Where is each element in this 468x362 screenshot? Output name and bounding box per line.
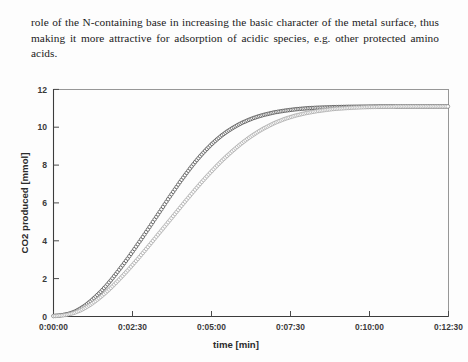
figure-container: 0 2 4 6 8 10 12 0:00:00 0:02:30 0:05:00 …	[0, 78, 468, 362]
body-paragraph: role of the N-containing base in increas…	[31, 15, 439, 62]
page-canvas: role of the N-containing base in increas…	[0, 0, 468, 362]
x-tick-label-4: 0:10:00	[355, 322, 384, 332]
y-axis-ticks	[54, 89, 60, 316]
data-series-layer	[52, 105, 450, 318]
x-tick-label-0: 0:00:00	[39, 322, 68, 332]
co2-production-chart: 0 2 4 6 8 10 12 0:00:00 0:02:30 0:05:00 …	[0, 78, 468, 362]
x-tick-label-1: 0:02:30	[118, 322, 147, 332]
y-tick-label-2: 2	[42, 274, 47, 284]
x-axis-title: time [min]	[213, 339, 259, 350]
y-tick-label-0: 0	[42, 312, 47, 322]
y-tick-label-8: 8	[42, 160, 47, 170]
series-slower-catalyst	[52, 105, 450, 318]
y-tick-label-12: 12	[37, 85, 47, 95]
plot-frame	[54, 90, 449, 317]
x-tick-label-5: 0:12:30	[434, 322, 463, 332]
x-axis-ticks	[54, 311, 449, 317]
x-tick-label-3: 0:07:30	[276, 322, 305, 332]
y-tick-label-6: 6	[42, 198, 47, 208]
x-tick-label-2: 0:05:00	[197, 322, 226, 332]
y-tick-label-10: 10	[37, 122, 47, 132]
y-axis-title: CO2 produced [mmol]	[19, 153, 30, 254]
y-tick-label-4: 4	[42, 236, 47, 246]
